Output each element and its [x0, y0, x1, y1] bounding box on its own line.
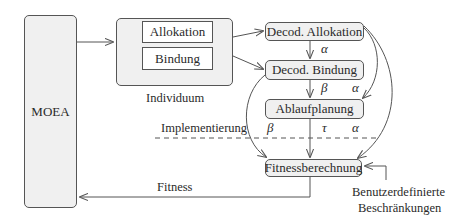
fitnessberechnung-box: Fitnessberechnung: [265, 159, 362, 177]
arrow-fitness-to-moea: [80, 177, 310, 197]
constraints-label-line2: Beschränkungen: [358, 201, 441, 216]
fitness-feedback-label: Fitness: [157, 180, 192, 195]
moea-box: MOEA: [24, 15, 77, 208]
arrow-constraints-to-fitness: [365, 166, 386, 180]
individuum-label: Individuum: [146, 91, 204, 106]
label-alpha-alloc-fitness: α: [352, 120, 359, 136]
arrow-individuum-to-decod-bindung: [233, 56, 263, 69]
label-beta-bind-ablauf: β: [321, 80, 327, 96]
constraints-label-line1: Benutzerdefinierte: [352, 185, 445, 200]
moea-label: MOEA: [31, 104, 69, 120]
individuum-allokation: Allokation: [142, 21, 213, 43]
label-tau-ablauf-fitness: τ: [322, 120, 327, 136]
arrow-bind-to-fitness: [246, 75, 266, 157]
implementierung-label: Implementierung: [161, 121, 247, 136]
ablaufplanung-box: Ablaufplanung: [265, 99, 364, 119]
label-beta-bind-fitness: β: [267, 120, 273, 136]
arrow-individuum-to-decod-allokation: [233, 31, 263, 37]
individuum-bindung: Bindung: [142, 47, 213, 70]
label-alpha-alloc-ablauf: α: [352, 80, 359, 96]
label-alpha-alloc-bind: α: [321, 41, 328, 57]
decod-bindung-box: Decod. Bindung: [265, 60, 364, 80]
decod-allokation-box: Decod. Allokation: [265, 22, 364, 41]
